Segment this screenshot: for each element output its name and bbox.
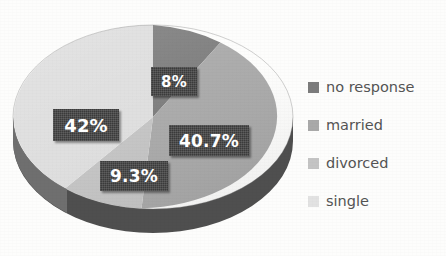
legend-label-married: married (326, 118, 383, 133)
legend-swatch-icon (308, 82, 319, 93)
pie-svg (8, 14, 298, 244)
legend-item-divorced: divorced (308, 144, 440, 182)
legend-swatch-icon (308, 120, 319, 131)
legend-item-married: married (308, 106, 440, 144)
legend-swatch-icon (308, 158, 319, 169)
pie-chart-graphic: 8% 42% 40.7% 9.3% (8, 14, 298, 244)
legend-item-single: single (308, 182, 440, 220)
pie-chart-figure: 8% 42% 40.7% 9.3% no response married di… (0, 0, 446, 256)
data-label-divorced: 9.3% (100, 161, 168, 191)
legend-item-no-response: no response (308, 68, 440, 106)
data-label-single: 42% (53, 109, 119, 141)
legend-label-single: single (326, 194, 369, 209)
data-label-no-response: 8% (151, 67, 197, 96)
data-label-married: 40.7% (169, 125, 249, 156)
chart-legend: no response married divorced single (308, 68, 440, 220)
legend-label-divorced: divorced (326, 156, 388, 171)
legend-swatch-icon (308, 196, 319, 207)
legend-label-no-response: no response (326, 80, 415, 95)
